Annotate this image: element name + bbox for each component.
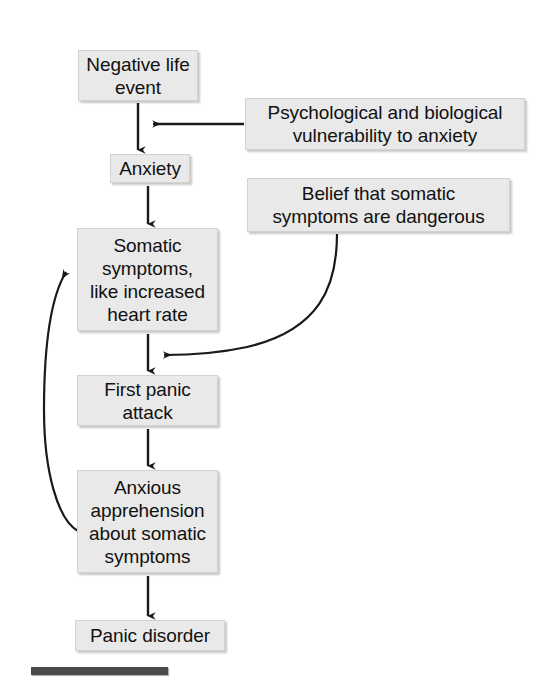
node-belief: Belief that somatic symptoms are dangero… <box>247 178 510 232</box>
figure-canvas: Negative life event Psychological and bi… <box>0 0 559 677</box>
node-first-panic-attack: First panic attack <box>77 375 218 426</box>
node-panic-disorder: Panic disorder <box>75 620 225 651</box>
node-vulnerability: Psychological and biological vulnerabili… <box>245 98 525 150</box>
connector-anxious-apprehension-feedback-to-somatic-symptoms <box>44 272 78 531</box>
node-negative-life-event: Negative life event <box>78 50 198 101</box>
node-anxious-apprehension: Anxious apprehension about somatic sympt… <box>77 470 218 573</box>
node-somatic-symptoms: Somatic symptoms, like increased heart r… <box>77 228 218 331</box>
node-anxiety: Anxiety <box>110 154 190 183</box>
bottom-rule-bar <box>31 667 168 675</box>
